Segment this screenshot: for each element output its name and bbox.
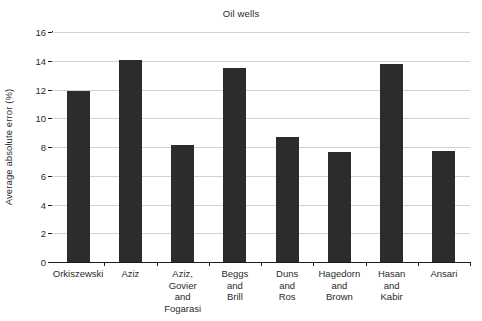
x-axis-tick-mark [418, 262, 419, 266]
bar[interactable] [276, 137, 299, 262]
x-axis-tick-mark [104, 262, 105, 266]
bar[interactable] [328, 152, 351, 262]
bar[interactable] [171, 145, 194, 262]
x-axis-tick-mark [366, 262, 367, 266]
y-axis-tick-label: 6 [41, 170, 46, 181]
y-axis-tick-mark [48, 61, 52, 62]
bar[interactable] [67, 91, 90, 262]
y-axis-tick-mark [48, 233, 52, 234]
y-axis-tick-label: 4 [41, 199, 46, 210]
bar[interactable] [432, 151, 455, 262]
y-axis-tick-mark [48, 32, 52, 33]
y-axis-tick-mark [48, 90, 52, 91]
y-axis-title: Average absolute error (%) [3, 89, 14, 205]
y-axis-tick-mark [48, 118, 52, 119]
gridline [52, 118, 470, 119]
y-axis-tick-mark [48, 147, 52, 148]
y-axis-tick-label: 16 [35, 27, 46, 38]
x-axis-tick-mark [209, 262, 210, 266]
gridline [52, 32, 470, 33]
x-axis-tick-mark [261, 262, 262, 266]
y-axis-title-container: Average absolute error (%) [0, 32, 16, 262]
x-axis-tick-mark [313, 262, 314, 266]
gridline [52, 90, 470, 91]
x-axis-tick-label: Ansari [394, 268, 482, 280]
gridline [52, 61, 470, 62]
bar[interactable] [223, 68, 246, 262]
plot-area: 0246810121416 [52, 32, 470, 262]
y-axis-tick-label: 2 [41, 228, 46, 239]
bar[interactable] [119, 60, 142, 262]
x-axis-tick-mark [157, 262, 158, 266]
chart-title: Oil wells [0, 8, 482, 19]
y-axis-tick-label: 0 [41, 257, 46, 268]
y-axis-tick-label: 12 [35, 84, 46, 95]
gridline [52, 147, 470, 148]
y-axis-tick-mark [48, 205, 52, 206]
y-axis-tick-mark [48, 262, 52, 263]
bar[interactable] [380, 64, 403, 262]
gridline [52, 233, 470, 234]
gridline [52, 176, 470, 177]
x-axis-labels: OrkiszewskiAzizAziz, Govier and Fogarasi… [52, 268, 470, 320]
gridline [52, 205, 470, 206]
y-axis-tick-label: 14 [35, 55, 46, 66]
y-axis-tick-mark [48, 176, 52, 177]
y-axis-tick-label: 10 [35, 113, 46, 124]
x-axis-tick-mark [470, 262, 471, 266]
y-axis-tick-label: 8 [41, 142, 46, 153]
bar-chart-figure: Oil wells Average absolute error (%) 024… [0, 0, 482, 321]
